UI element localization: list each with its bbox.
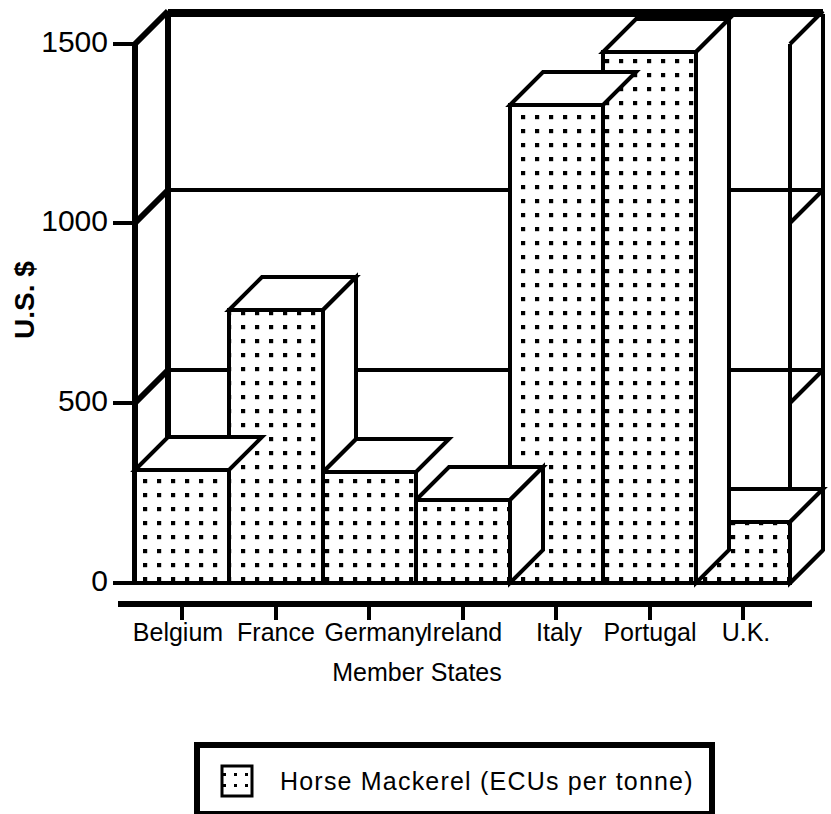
x-tick-label-germany: Germany — [325, 618, 428, 646]
bar-france-side-face — [323, 277, 356, 472]
bar-portugal[interactable] — [603, 19, 729, 583]
y-depth-edge-1500 — [135, 11, 168, 44]
y-tick-label-1000: 1000 — [41, 204, 108, 237]
y-axis-title: U.S. $ — [9, 261, 40, 339]
y-depth-edge-1000 — [135, 190, 168, 223]
x-tick-label-italy: Italy — [536, 618, 582, 646]
x-tick-label-ireland: Ireland — [426, 618, 502, 646]
bar-belgium-front-face — [135, 470, 229, 583]
y-tick-label-0: 0 — [91, 564, 108, 597]
x-tick-label-portugal: Portugal — [603, 618, 696, 646]
depth-edge-500 — [790, 370, 823, 403]
x-axis-title: Member States — [332, 658, 502, 686]
x-tick-label-uk: U.K. — [722, 618, 771, 646]
y-depth-edge-500 — [135, 370, 168, 403]
chart-legend: Horse Mackerel (ECUs per tonne) — [197, 745, 712, 814]
y-axis: 1500 1000 500 0 U.S. $ — [9, 25, 135, 597]
bar-ireland[interactable] — [416, 467, 543, 583]
bar-germany-front-face — [323, 472, 416, 583]
depth-edge-1000 — [790, 190, 823, 223]
legend-swatch-horse-mackerel — [222, 766, 252, 796]
bar-portugal-front-face — [603, 52, 696, 583]
x-tick-label-belgium: Belgium — [133, 618, 223, 646]
bar-portugal-side-face — [696, 19, 729, 583]
x-tick-label-france: France — [237, 618, 315, 646]
chart-page: 1500 1000 500 0 U.S. $ Belgium France Ge… — [0, 0, 831, 814]
bar-ireland-front-face — [416, 500, 510, 583]
x-axis: Belgium France Germany Ireland Italy Por… — [118, 604, 812, 686]
legend-label-horse-mackerel: Horse Mackerel (ECUs per tonne) — [280, 767, 694, 795]
y-tick-label-500: 500 — [58, 384, 108, 417]
y-tick-label-1500: 1500 — [41, 25, 108, 58]
bar-chart-figure: 1500 1000 500 0 U.S. $ Belgium France Ge… — [0, 0, 831, 814]
